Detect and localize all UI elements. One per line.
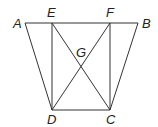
segment-BC xyxy=(110,23,138,110)
point-label-C: C xyxy=(106,112,116,127)
point-label-B: B xyxy=(142,16,151,31)
point-label-D: D xyxy=(47,112,56,127)
point-label-G: G xyxy=(76,45,86,60)
point-label-E: E xyxy=(47,5,56,20)
point-label-A: A xyxy=(12,16,22,31)
diagram-canvas: AEFBGDC xyxy=(0,0,158,127)
geometry-diagram: AEFBGDC xyxy=(0,0,158,127)
point-label-F: F xyxy=(106,5,115,20)
segment-AD xyxy=(25,23,52,110)
